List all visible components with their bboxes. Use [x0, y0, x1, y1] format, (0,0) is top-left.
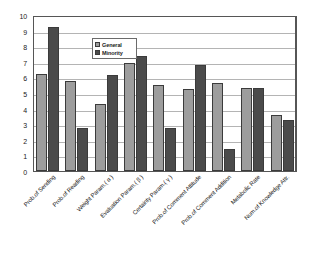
- y-tick-label: 1: [23, 153, 27, 160]
- y-tick-label: 4: [23, 106, 27, 113]
- y-tick-label: 9: [23, 28, 27, 35]
- bar-minority: [136, 56, 147, 171]
- y-axis: 012345678910: [0, 16, 31, 172]
- bar-group: [34, 17, 63, 171]
- bar-group: [210, 17, 239, 171]
- x-tick-label: Prob.of Comment Addition: [180, 174, 233, 227]
- bar-group: [63, 17, 92, 171]
- y-tick-label: 2: [23, 137, 27, 144]
- bar-minority: [253, 88, 264, 171]
- bar-group: [181, 17, 210, 171]
- bar-minority: [165, 128, 176, 171]
- x-axis: Prob.of SendingProb.of ReadingWeight Par…: [33, 172, 297, 253]
- legend-label: General: [102, 42, 122, 48]
- y-tick-label: 10: [20, 13, 27, 20]
- bar-general: [241, 88, 252, 171]
- bar-general: [153, 85, 164, 171]
- bar-minority: [283, 120, 294, 171]
- bar-minority: [107, 75, 118, 171]
- bar-minority: [224, 149, 235, 171]
- bar-minority: [48, 27, 59, 171]
- legend-swatch-icon: [95, 50, 100, 55]
- bar-chart-figure: 012345678910 GeneralMinority Prob.of Sen…: [0, 0, 314, 253]
- plot-area: [33, 16, 297, 172]
- bar-general: [36, 74, 47, 172]
- bar-general: [183, 89, 194, 171]
- legend-label: Minority: [102, 50, 123, 56]
- y-tick-label: 5: [23, 91, 27, 98]
- legend-item: Minority: [95, 49, 134, 56]
- chart-legend: GeneralMinority: [92, 38, 137, 59]
- bar-general: [95, 104, 106, 171]
- bar-general: [124, 63, 135, 171]
- bar-general: [212, 83, 223, 171]
- bar-group: [151, 17, 180, 171]
- bar-minority: [77, 128, 88, 171]
- y-tick-label: 7: [23, 59, 27, 66]
- bar-minority: [195, 65, 206, 171]
- bar-general: [271, 115, 282, 171]
- legend-swatch-icon: [95, 42, 100, 47]
- y-tick-label: 0: [23, 169, 27, 176]
- legend-item: General: [95, 41, 134, 48]
- y-tick-label: 6: [23, 75, 27, 82]
- x-tick-label: Prob.of Comment Attitude: [151, 174, 203, 226]
- bar-group: [239, 17, 268, 171]
- bars-layer: [34, 17, 295, 171]
- bar-general: [65, 81, 76, 171]
- y-tick-label: 8: [23, 44, 27, 51]
- y-tick-label: 3: [23, 122, 27, 129]
- bar-group: [269, 17, 297, 171]
